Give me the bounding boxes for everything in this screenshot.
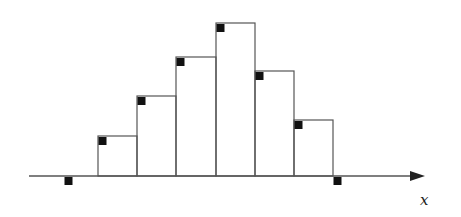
x-axis-label: x xyxy=(420,191,429,209)
marker-square xyxy=(99,137,107,145)
marker-square xyxy=(177,58,185,66)
histogram-diagram: x xyxy=(0,0,461,217)
bars-group xyxy=(98,23,333,176)
histogram-bar xyxy=(137,96,176,176)
marker-square xyxy=(138,97,146,105)
marker-square xyxy=(256,72,264,80)
histogram-bar xyxy=(255,71,294,176)
marker-square xyxy=(295,121,303,129)
histogram-bar xyxy=(176,57,216,176)
markers-group xyxy=(65,24,342,185)
marker-square xyxy=(217,24,225,32)
marker-square xyxy=(334,177,342,185)
x-axis-arrow-icon xyxy=(410,171,425,181)
marker-square xyxy=(65,177,73,185)
histogram-bar xyxy=(216,23,255,176)
